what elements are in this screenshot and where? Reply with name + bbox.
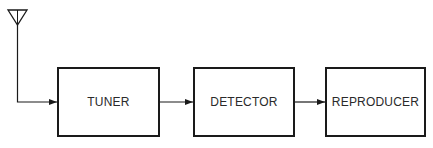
reproducer-block: REPRODUCER xyxy=(325,67,426,137)
detector-label: DETECTOR xyxy=(210,95,277,109)
radio-receiver-block-diagram: TUNER DETECTOR REPRODUCER xyxy=(0,0,433,148)
tuner-label: TUNER xyxy=(87,95,129,109)
antenna-to-tuner-arrow xyxy=(18,25,58,102)
detector-block: DETECTOR xyxy=(193,67,295,137)
antenna-icon xyxy=(8,10,27,25)
reproducer-label: REPRODUCER xyxy=(332,95,419,109)
tuner-block: TUNER xyxy=(57,67,160,137)
